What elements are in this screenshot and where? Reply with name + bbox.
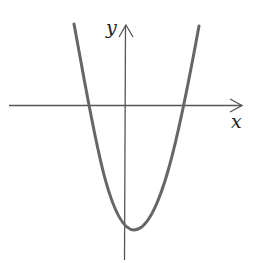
parabola-graph (0, 0, 255, 263)
y-axis-label: y (106, 18, 117, 37)
x-axis-label: x (231, 112, 242, 131)
parabola-curve (74, 24, 199, 230)
